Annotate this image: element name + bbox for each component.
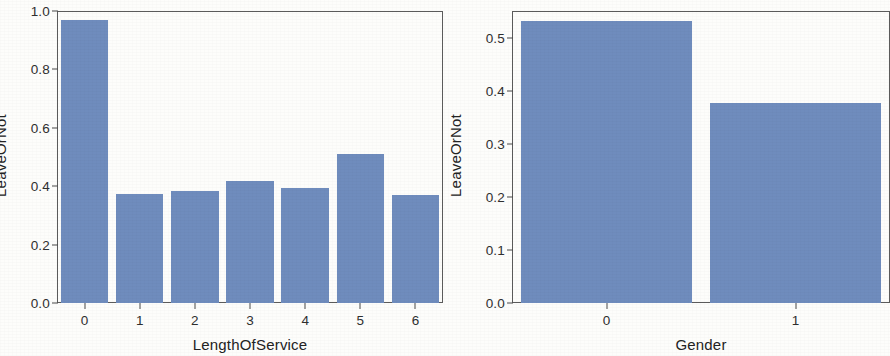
y-tick-label: 0.0 xyxy=(17,296,50,311)
x-tick-label: 3 xyxy=(246,313,254,328)
y-tick-mark xyxy=(52,11,58,12)
x-axis-title-gender: Gender xyxy=(512,336,890,353)
x-tick-mark xyxy=(194,303,195,309)
x-tick-label: 1 xyxy=(792,313,800,328)
plot-area-length-of-service xyxy=(57,11,443,303)
y-tick-label: 0.4 xyxy=(472,83,505,98)
y-tick-label: 0.6 xyxy=(17,120,50,135)
figure-two-bar-charts: 0.00.20.40.60.81.0 0123456 LengthOfServi… xyxy=(0,0,890,356)
bar xyxy=(226,181,273,303)
x-tick-label: 1 xyxy=(136,313,144,328)
bar xyxy=(116,194,163,303)
y-tick-mark xyxy=(52,69,58,70)
x-tick-mark xyxy=(305,303,306,309)
chart-panel-gender: 0.00.10.20.30.40.5 01 Gender LeaveOrNot xyxy=(460,0,890,356)
y-axis-title-gender: LeaveOrNot xyxy=(447,10,464,302)
x-tick-mark xyxy=(606,303,607,309)
bar xyxy=(61,20,108,303)
x-tick-mark xyxy=(84,303,85,309)
x-tick-mark xyxy=(415,303,416,309)
bar-series-gender xyxy=(512,11,890,303)
bar xyxy=(281,188,328,303)
y-tick-label: 0.3 xyxy=(472,136,505,151)
x-tick-label: 4 xyxy=(301,313,309,328)
x-tick-mark xyxy=(250,303,251,309)
y-tick-label: 0.2 xyxy=(472,189,505,204)
x-tick-label: 6 xyxy=(412,313,420,328)
x-tick-label: 5 xyxy=(357,313,365,328)
y-tick-mark xyxy=(507,303,513,304)
y-tick-mark xyxy=(52,244,58,245)
bar xyxy=(521,21,691,303)
y-tick-mark xyxy=(507,196,513,197)
bar xyxy=(171,191,218,303)
plot-area-gender xyxy=(512,11,890,303)
x-tick-mark xyxy=(795,303,796,309)
x-tick-label: 2 xyxy=(191,313,199,328)
x-tick-label: 0 xyxy=(81,313,89,328)
x-tick-mark xyxy=(360,303,361,309)
x-tick-mark xyxy=(139,303,140,309)
y-tick-mark xyxy=(507,143,513,144)
y-tick-label: 0.8 xyxy=(17,62,50,77)
y-tick-label: 0.1 xyxy=(472,242,505,257)
bar xyxy=(337,154,384,304)
chart-panel-length-of-service: 0.00.20.40.60.81.0 0123456 LengthOfServi… xyxy=(0,0,460,356)
y-tick-label: 0.2 xyxy=(17,237,50,252)
y-tick-label: 0.5 xyxy=(472,30,505,45)
y-tick-mark xyxy=(52,303,58,304)
y-axis-title-length-of-service: LeaveOrNot xyxy=(0,10,9,302)
x-tick-label: 0 xyxy=(603,313,611,328)
bar-series-length-of-service xyxy=(57,11,443,303)
bar xyxy=(392,195,439,303)
y-tick-mark xyxy=(507,249,513,250)
y-tick-mark xyxy=(52,186,58,187)
y-tick-label: 1.0 xyxy=(17,4,50,19)
y-tick-label: 0.0 xyxy=(472,296,505,311)
y-tick-mark xyxy=(507,37,513,38)
y-tick-mark xyxy=(52,127,58,128)
y-tick-label: 0.4 xyxy=(17,179,50,194)
y-tick-mark xyxy=(507,90,513,91)
bar xyxy=(710,103,880,303)
x-axis-title-length-of-service: LengthOfService xyxy=(57,336,443,353)
